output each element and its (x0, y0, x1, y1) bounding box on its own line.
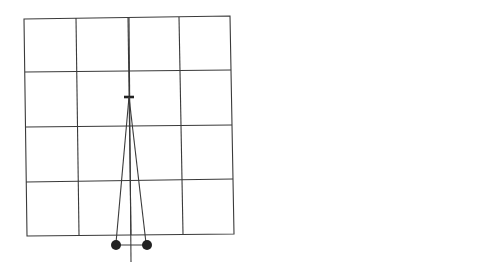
panel-a (24, 16, 234, 262)
figure (0, 0, 502, 271)
left-eye-icon (111, 240, 121, 250)
left-sightline (116, 97, 129, 243)
right-sightline (129, 97, 146, 243)
grid-hline (26, 179, 233, 182)
grid-hline (25, 70, 231, 72)
right-eye-icon (142, 240, 152, 250)
